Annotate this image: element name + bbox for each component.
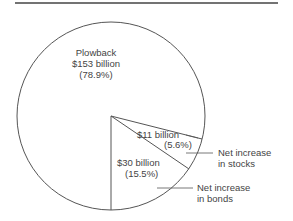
plowback-pct-label: (78.9%) xyxy=(79,69,112,80)
plowback-name-label: Plowback xyxy=(76,47,117,58)
plowback-value-label: $153 billion xyxy=(72,58,120,69)
bonds-pct-label: (15.5%) xyxy=(125,168,158,179)
stocks-callout-line2: in stocks xyxy=(218,158,255,169)
stocks-pct-label: (5.6%) xyxy=(164,139,192,150)
pie-chart: Plowback $153 billion (78.9%) $11 billio… xyxy=(0,0,293,221)
stocks-callout-line1: Net increase xyxy=(218,147,271,158)
bonds-callout-line1: Net increase xyxy=(197,182,250,193)
bonds-value-label: $30 billion xyxy=(117,157,160,168)
bonds-callout-line2: in bonds xyxy=(197,193,233,204)
